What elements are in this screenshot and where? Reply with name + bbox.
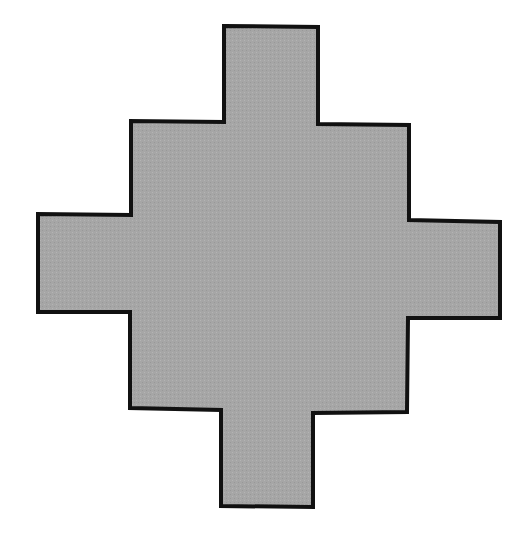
stepped-cross-shape [38,26,500,507]
figure-canvas [0,0,530,542]
